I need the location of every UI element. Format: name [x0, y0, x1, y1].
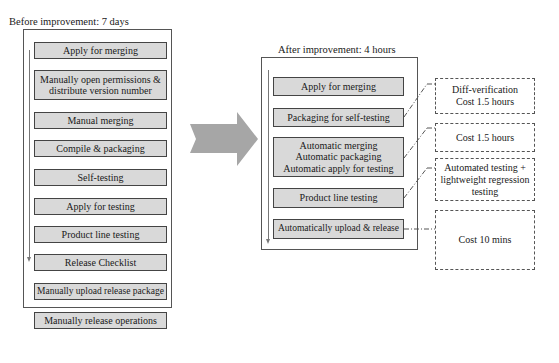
- after-step: Packaging for self-testing: [273, 108, 404, 127]
- after-title: After improvement: 4 hours: [278, 44, 396, 55]
- note-automated-testing: Automated testing + lightweight regressi…: [435, 158, 535, 201]
- before-step: Release Checklist: [34, 254, 167, 271]
- before-title: Before improvement: 7 days: [9, 16, 129, 27]
- before-step: Product line testing: [34, 226, 167, 243]
- note-cost-1-5-hours: Cost 1.5 hours: [435, 123, 535, 152]
- after-step: Apply for merging: [273, 77, 404, 96]
- before-step: Apply for merging: [34, 42, 167, 59]
- note-diff-verification: Diff-verification Cost 1.5 hours: [435, 78, 535, 114]
- note-cost-10-mins: Cost 10 mins: [435, 210, 535, 270]
- before-step: Manually upload release package: [34, 283, 167, 300]
- after-step: Automatic merging Automatic packaging Au…: [273, 137, 404, 177]
- before-step: Compile & packaging: [34, 140, 167, 157]
- before-step: Manually release operations: [34, 312, 167, 329]
- before-step: Self-testing: [34, 169, 167, 186]
- before-timeline-arrow: [29, 50, 30, 258]
- after-step: Automatically upload & release: [273, 219, 404, 239]
- before-step: Manually open permissions & distribute v…: [34, 70, 167, 100]
- before-step: Apply for testing: [34, 198, 167, 215]
- before-step: Manual merging: [34, 112, 167, 129]
- after-timeline-arrow: [268, 70, 269, 240]
- after-step: Product line testing: [273, 188, 404, 208]
